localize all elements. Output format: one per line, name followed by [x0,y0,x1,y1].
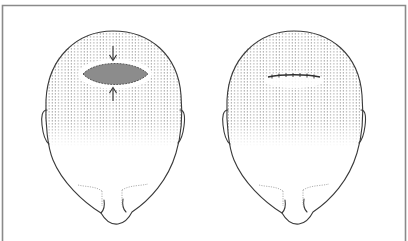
nose-right [123,199,126,212]
scalp-reduction-illustration [0,0,408,241]
head-before [40,28,190,224]
hair-stipple-right [220,28,370,158]
hair-stipple-left [40,28,190,158]
head-after [220,28,370,224]
nose-left [101,200,104,213]
